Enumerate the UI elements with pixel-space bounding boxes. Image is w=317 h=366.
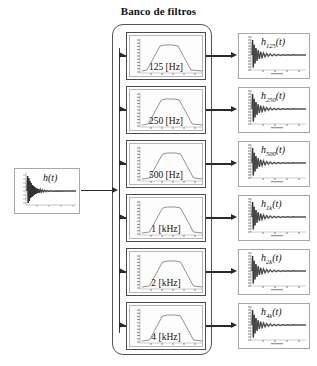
filter-output-wire (206, 55, 232, 56)
bandpass-curve (142, 99, 203, 125)
output-arrow-icon (231, 214, 237, 220)
filter-block-4khz[interactable]: 4 [kHz] (126, 302, 206, 350)
filter-input-wire (119, 271, 126, 272)
filter-input-wire (119, 325, 126, 326)
input-wire (81, 190, 113, 191)
filter-response-svg (130, 36, 203, 77)
filter-block-500hz[interactable]: 500 [Hz] (126, 140, 206, 188)
filter-output-wire (206, 271, 232, 272)
filter-response-svg (130, 198, 203, 239)
filter-output-wire (206, 109, 232, 110)
bandpass-curve (142, 315, 203, 341)
page-title: Banco de filtros (0, 5, 317, 17)
filter-response-plot (129, 197, 203, 239)
filter-response-svg (130, 90, 203, 131)
bandpass-curve (142, 153, 203, 179)
distribution-bus (119, 48, 120, 333)
output-plot-125: h125(t) (238, 33, 310, 79)
filter-response-plot (129, 305, 203, 347)
output-arrow-icon (231, 160, 237, 166)
filter-response-svg (130, 144, 203, 185)
filter-bank-diagram: Banco de filtros (0, 0, 317, 366)
output-label-1k: h1k(t) (261, 198, 282, 211)
output-plot-500: h500(t) (238, 141, 310, 187)
output-label-125: h125(t) (261, 36, 285, 49)
filter-response-plot (129, 89, 203, 131)
filter-input-wire (119, 55, 126, 56)
output-arrow-icon (231, 322, 237, 328)
filter-block-125hz[interactable]: 125 [Hz] (126, 32, 206, 80)
output-arrow-icon (231, 52, 237, 58)
output-label-4k: h4k(t) (261, 306, 282, 319)
output-label-2k: h2k(t) (261, 252, 282, 265)
output-plot-250: h250(t) (238, 87, 310, 133)
bandpass-curve (142, 45, 203, 71)
output-plot-4k: h4k(t) (238, 303, 310, 349)
filter-input-wire (119, 109, 126, 110)
filter-input-wire (119, 217, 126, 218)
output-plot-2k: h2k(t) (238, 249, 310, 295)
input-signal-label: h(t) (43, 172, 57, 183)
output-label-250: h250(t) (261, 90, 285, 103)
page-title-text: Banco de filtros (121, 5, 196, 17)
output-arrow-icon (231, 106, 237, 112)
output-label-500: h500(t) (261, 144, 285, 157)
filter-response-plot (129, 35, 203, 77)
filter-response-svg (130, 306, 203, 347)
filter-block-2khz[interactable]: 2 [kHz] (126, 248, 206, 296)
filter-output-wire (206, 217, 232, 218)
input-arrow-icon (112, 187, 118, 193)
filter-block-1khz[interactable]: 1 [kHz] (126, 194, 206, 242)
filter-response-plot (129, 143, 203, 185)
filter-output-wire (206, 325, 232, 326)
bandpass-curve (142, 207, 203, 233)
input-signal-plot: h(t) (14, 168, 80, 214)
filter-input-wire (119, 163, 126, 164)
bandpass-curve (142, 261, 203, 287)
filter-response-svg (130, 252, 203, 293)
output-arrow-icon (231, 268, 237, 274)
filter-block-250hz[interactable]: 250 [Hz] (126, 86, 206, 134)
filter-output-wire (206, 163, 232, 164)
output-plot-1k: h1k(t) (238, 195, 310, 241)
filter-response-plot (129, 251, 203, 293)
